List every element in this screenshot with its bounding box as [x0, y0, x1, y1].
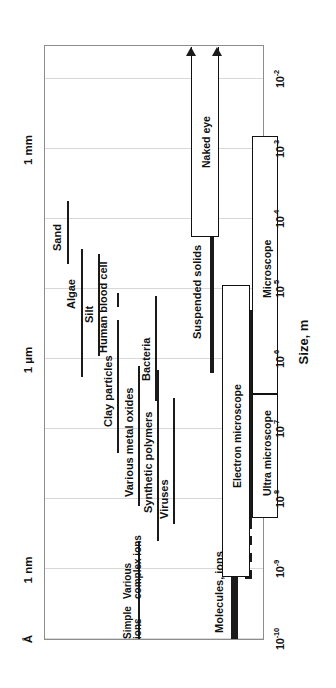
xtick-1e-5: 10-5: [272, 280, 286, 298]
xtick-1e-4: 10-4: [272, 210, 286, 228]
bar-human-blood-cell: [117, 293, 119, 307]
bar-algae: [81, 249, 83, 377]
bar-label-clay-particles: Clay particles: [102, 355, 114, 427]
bar-label-various-complex-ions: Variouscomplex ions: [123, 535, 143, 599]
obox-divider: [252, 393, 278, 395]
topmark-1um: 1 µm: [22, 347, 34, 373]
bar-various-metal-oxides: [138, 366, 140, 506]
xtick-1e-8: 10-8: [272, 490, 286, 508]
bar-sand: [67, 201, 69, 264]
topmark-angstrom: Å: [22, 635, 34, 643]
bar-label-various-metal-oxides: Various metal oxides: [123, 388, 135, 497]
gridline: [45, 218, 263, 219]
xtick-1e-7: 10-7: [272, 420, 286, 438]
gridline: [45, 148, 263, 149]
bar-silt: [98, 254, 100, 356]
xtick-1e-3: 10-3: [272, 140, 286, 158]
figure-stage: Molecules, ions Colloids Suspended solid…: [0, 0, 336, 688]
xtick-1e-10: 10-10: [272, 628, 286, 650]
xtick-1e-6: 10-6: [272, 350, 286, 368]
bar-label-simple-ions: Simpleions: [123, 606, 143, 639]
bar-viruses: [173, 398, 175, 524]
bar-label-bacteria: Bacteria: [140, 338, 152, 381]
bar-label-viruses: Viruses: [158, 479, 170, 519]
bar-synthetic-polymers: [157, 370, 159, 541]
bar-label-algae: Algae: [65, 279, 77, 309]
obox-label-electron-microscope: Electron microscope: [231, 384, 243, 488]
topmark-1nm: 1 nm: [22, 557, 34, 584]
bar-label-sand: Sand: [51, 224, 63, 251]
bar-clay-particles: [117, 320, 119, 453]
arrowhead-naked-eye-bottom: [212, 47, 222, 56]
arrowhead-naked-eye-top: [186, 47, 196, 56]
gridline: [45, 78, 263, 79]
xtick-1e-2: 10-2: [272, 70, 286, 88]
bar-label-silt: Silt: [83, 306, 95, 323]
topmark-1mm: 1 mm: [22, 135, 34, 165]
axis-title: Size, m: [296, 320, 311, 365]
obox-label-naked-eye: Naked eye: [200, 116, 212, 168]
bar-label-suspended-solids: Suspended solids: [191, 245, 203, 339]
bar-label-synthetic-polymers: Synthetic polymers: [142, 412, 154, 513]
bar-bacteria: [155, 296, 157, 401]
xtick-1e-9: 10-9: [272, 560, 286, 578]
